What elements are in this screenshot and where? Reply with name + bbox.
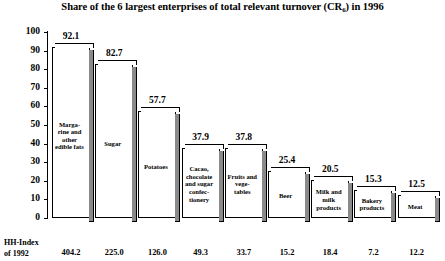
bar-value-label: 37.8 [225,132,263,142]
hh-index-value: 33.7 [222,248,266,257]
bar-group[interactable]: 57.7Potatoes [138,111,176,218]
bar-top-face [141,107,180,112]
bar-side-face [132,67,137,222]
bar-side-face [262,151,267,222]
bar-value-label: 20.5 [311,164,349,174]
bar-side-face [391,193,396,222]
bar-group[interactable]: 37.9Cacao, chocolate and sugar confec- t… [182,148,220,218]
hh-index-value: 49.3 [179,248,223,257]
bar-top-face [271,167,310,172]
bar-side-face [348,183,353,222]
hh-index-value: 7.2 [351,248,395,257]
bar-side-face [305,174,310,222]
hh-index-value: 12.2 [395,248,439,257]
bar-category-label: Sugar [96,140,129,148]
bar-category-label: Meat [399,203,432,211]
bar-group[interactable]: 15.3Bakery products [354,190,392,218]
bar-category-label: Beer [269,192,302,200]
bar-value-label: 92.1 [52,31,90,41]
bar-value-label: 57.7 [138,95,176,105]
bar-group[interactable]: 92.1Marga- rine and other edible fats [52,47,90,218]
bar-group[interactable]: 37.8Fruits and vege- tables [225,148,263,218]
hh-index-value: 126.0 [135,248,179,257]
bar-top-face [55,43,94,48]
bar-group[interactable]: 25.4Beer [268,171,306,218]
bar-value-label: 82.7 [95,48,133,58]
hh-index-caption: HH-Index of 1992 [4,238,48,259]
bar-value-label: 15.3 [354,174,392,184]
bar-category-label: Fruits and vege- tables [226,173,259,196]
bar-group[interactable]: 12.5Meat [398,195,436,218]
hh-index-value: 18.4 [308,248,352,257]
bar-group[interactable]: 82.7Sugar [95,64,133,218]
bar-side-face [219,151,224,222]
bar-top-face [401,191,440,196]
bar-side-face [435,198,440,222]
bar-category-label: Milk and milk products [312,188,345,211]
bar-top-face [185,144,224,149]
bar-side-face [175,114,180,222]
bar-group[interactable]: 20.5Milk and milk products [311,180,349,218]
bar-top-face [314,176,353,181]
bar-top-face [228,144,267,149]
hh-index-value: 404.2 [49,248,93,257]
hh-index-value: 15.2 [265,248,309,257]
hh-index-value: 225.0 [92,248,136,257]
bar-value-label: 37.9 [182,132,220,142]
bar-category-label: Bakery products [355,197,388,212]
bar-value-label: 12.5 [398,179,436,189]
bar-category-label: Potatoes [139,163,172,171]
bar-value-label: 25.4 [268,155,306,165]
bar-category-label: Cacao, chocolate and sugar confec- tione… [183,165,216,203]
bars-layer: 92.1Marga- rine and other edible fats82.… [0,0,445,261]
bar-side-face [89,50,94,222]
bar-category-label: Marga- rine and other edible fats [53,121,86,151]
bar-top-face [357,186,396,191]
chart-root: Share of the 6 largest enterprises of to… [0,0,445,261]
bar-top-face [98,60,137,65]
